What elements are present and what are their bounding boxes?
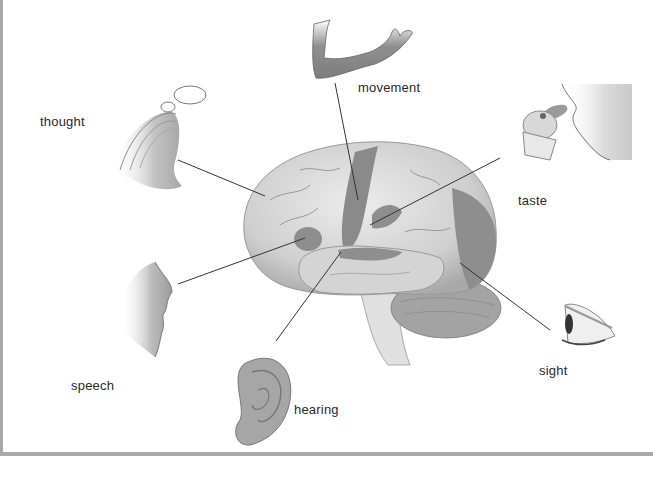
ear-icon bbox=[236, 358, 291, 445]
label-movement: movement bbox=[358, 80, 420, 95]
label-hearing: hearing bbox=[294, 402, 339, 417]
thinking-head-icon bbox=[112, 86, 206, 189]
tasting-mouth-icon bbox=[523, 84, 632, 160]
label-sight: sight bbox=[539, 363, 567, 378]
speaking-face-icon bbox=[120, 262, 172, 357]
label-thought: thought bbox=[40, 114, 85, 129]
arm-icon bbox=[313, 20, 413, 78]
label-taste: taste bbox=[518, 193, 547, 208]
leader-line-thought bbox=[178, 160, 265, 196]
eye-icon bbox=[562, 304, 615, 344]
label-speech: speech bbox=[71, 378, 114, 393]
